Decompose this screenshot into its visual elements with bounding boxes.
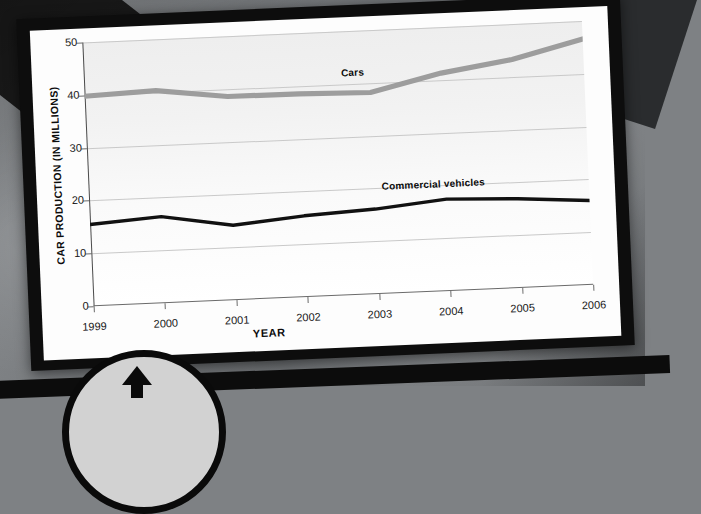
line-chart: CAR PRODUCTION (IN MILLIONS) YEAR 010203… [30, 6, 622, 360]
x-tick-mark [308, 297, 309, 303]
series-line-cars [83, 39, 584, 105]
x-tick-mark [522, 288, 523, 294]
plot-area: 01020304050 1999200020012002200320042005… [82, 21, 593, 306]
x-tick-mark [94, 306, 95, 312]
page-paper: CAR PRODUCTION (IN MILLIONS) YEAR 010203… [30, 6, 622, 360]
x-tick-label: 2001 [214, 313, 260, 327]
x-tick-label: 2006 [571, 298, 617, 312]
x-tick-label: 2004 [428, 304, 474, 318]
x-tick-mark [165, 303, 166, 309]
x-tick-label: 1999 [71, 319, 117, 333]
series-label-cars: Cars [341, 66, 364, 78]
arrow-up-icon [122, 366, 152, 385]
series-lines [82, 21, 593, 306]
x-tick-label: 2000 [143, 316, 189, 330]
x-tick-label: 2005 [499, 301, 545, 315]
x-tick-mark [236, 300, 237, 306]
x-tick-label: 2003 [357, 307, 403, 321]
y-tick-label: 40 [45, 88, 79, 101]
x-tick-mark [593, 285, 594, 291]
arrow-up-icon-stem [131, 384, 143, 398]
x-tick-mark [450, 291, 451, 297]
photographed-page: CAR PRODUCTION (IN MILLIONS) YEAR 010203… [1, 0, 658, 415]
x-axis-title: YEAR [253, 326, 286, 339]
y-tick-label: 30 [48, 141, 82, 154]
y-tick-label: 0 [54, 299, 88, 312]
y-tick-label: 20 [50, 194, 84, 207]
y-tick-label: 50 [43, 36, 77, 49]
page-frame-border: CAR PRODUCTION (IN MILLIONS) YEAR 010203… [16, 0, 634, 371]
y-tick-label: 10 [52, 247, 86, 260]
series-line-commercial-vehicles [90, 193, 590, 231]
x-tick-label: 2002 [285, 310, 331, 324]
x-tick-mark [379, 294, 380, 300]
